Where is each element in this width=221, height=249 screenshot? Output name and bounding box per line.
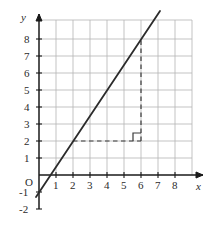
x-axis-arrowhead: [196, 172, 203, 178]
x-tick-label-8: 8: [172, 180, 178, 191]
y-axis-arrowhead: [36, 14, 42, 21]
grid-lines: [39, 20, 192, 175]
x-tick-label-2: 2: [70, 180, 76, 191]
plot-canvas: [0, 0, 221, 249]
x-tick-label-6: 6: [138, 180, 144, 191]
x-tick-label-7: 7: [155, 180, 161, 191]
y-tick-label-6: 6: [24, 68, 30, 79]
y-tick-label-neg1: -1: [19, 187, 28, 198]
y-tick-label-4: 4: [24, 102, 30, 113]
y-tick-label-7: 7: [24, 51, 30, 62]
origin-label: O: [25, 177, 33, 188]
x-tick-label-4: 4: [104, 180, 110, 191]
y-tick-label-2: 2: [24, 136, 30, 147]
x-tick-label-5: 5: [121, 180, 127, 191]
coordinate-graph-figure: 8 7 6 5 4 3 2 1 -1 -2 O 1 2 3 4 5 6 7 8 …: [0, 0, 221, 249]
y-axis-label: y: [21, 12, 26, 23]
y-tick-label-neg2: -2: [19, 204, 28, 215]
x-tick-label-1: 1: [53, 180, 59, 191]
x-tick-label-3: 3: [87, 180, 93, 191]
y-tick-label-3: 3: [24, 119, 30, 130]
y-tick-label-5: 5: [24, 85, 30, 96]
y-tick-label-1: 1: [24, 153, 30, 164]
x-axis-label: x: [196, 181, 201, 192]
right-angle-marker: [133, 133, 141, 141]
y-tick-label-8: 8: [24, 34, 30, 45]
